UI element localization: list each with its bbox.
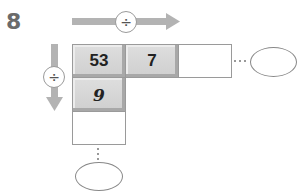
problem-number: 8 bbox=[6, 10, 21, 34]
cell-r1c1: 53 bbox=[72, 44, 126, 78]
horizontal-operator: ÷ bbox=[120, 14, 132, 30]
cell-r1c2: 7 bbox=[125, 44, 179, 78]
arrow-down-icon bbox=[46, 97, 63, 111]
bottom-answer-ellipse[interactable] bbox=[75, 162, 123, 191]
arrow-right-icon bbox=[166, 13, 180, 30]
cell-r1c3-answer[interactable] bbox=[178, 44, 232, 78]
vertical-continuation-dots bbox=[97, 148, 100, 162]
vertical-operator: ÷ bbox=[48, 69, 60, 85]
horizontal-continuation-dots bbox=[234, 60, 248, 63]
divide-icon: ÷ bbox=[115, 11, 137, 33]
cell-r2c1: 9 bbox=[72, 77, 126, 112]
divide-icon: ÷ bbox=[43, 66, 65, 88]
cell-r3c1-answer[interactable] bbox=[72, 111, 126, 145]
right-answer-ellipse[interactable] bbox=[250, 47, 297, 77]
